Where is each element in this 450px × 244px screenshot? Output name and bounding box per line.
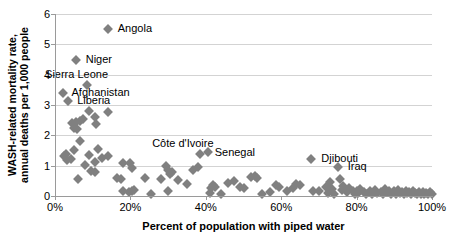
y-tick-label: 5	[44, 39, 50, 50]
data-point	[252, 173, 262, 183]
annotation-label: Niger	[86, 54, 112, 66]
y-axis-title-line2: annual deaths per 1,000 people	[18, 27, 30, 183]
gridline	[55, 14, 432, 15]
data-point	[103, 24, 113, 34]
gridline	[55, 75, 432, 76]
data-point	[216, 190, 226, 200]
annotation-label: Liberia	[77, 95, 110, 107]
y-tick-label: 2	[44, 130, 50, 141]
annotation-label: Iraq	[348, 161, 367, 173]
y-tick-label: 6	[44, 9, 50, 20]
annotation-label: Senegal	[215, 147, 255, 159]
data-point	[141, 173, 151, 183]
data-point	[103, 107, 113, 117]
data-point	[182, 179, 192, 189]
data-point	[71, 55, 81, 65]
data-point	[156, 174, 166, 184]
data-point	[127, 163, 137, 173]
data-point	[146, 190, 156, 200]
x-tick-label: 60%	[270, 202, 292, 213]
gridline	[55, 105, 432, 106]
data-point	[306, 154, 316, 164]
x-tick-label: 80%	[346, 202, 368, 213]
scatter-chart: 0123456 0%20%40%60%80%100% AngolaNigerSi…	[0, 0, 450, 244]
annotation-label: Côte d'Ivoire	[152, 138, 213, 150]
x-axis-line	[55, 196, 433, 197]
x-tick-label: 100%	[418, 202, 446, 213]
y-tick-label: 0	[44, 191, 50, 202]
y-axis-title: WASH-related mortality rate, annual deat…	[0, 14, 38, 196]
x-tick-label: 40%	[195, 202, 217, 213]
x-axis-title: Percent of population with piped water	[55, 220, 432, 232]
data-point	[116, 174, 126, 184]
gridline	[55, 44, 432, 45]
data-point	[73, 174, 83, 184]
y-tick-label: 1	[44, 160, 50, 171]
x-tick-label: 0%	[47, 202, 63, 213]
data-point	[163, 186, 173, 196]
plot-area: 0123456 0%20%40%60%80%100% AngolaNigerSi…	[55, 14, 432, 196]
annotation-label: Angola	[118, 23, 152, 35]
y-tick-label: 3	[44, 100, 50, 111]
gridline	[55, 135, 432, 136]
y-axis-line	[55, 14, 56, 197]
y-axis-title-line1: WASH-related mortality rate,	[6, 27, 18, 183]
x-tick-label: 20%	[119, 202, 141, 213]
data-point	[75, 136, 85, 146]
gridline	[55, 166, 432, 167]
